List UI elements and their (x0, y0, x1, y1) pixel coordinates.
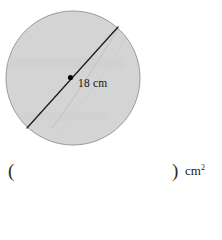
center-point-dot (68, 75, 73, 80)
answer-blank-field[interactable] (20, 160, 168, 180)
answer-open-paren: ( (8, 161, 14, 180)
answer-input-row: ( ) cm2 (0, 152, 222, 187)
answer-unit-text: cm (185, 163, 201, 178)
watermark-band-lower (12, 112, 108, 121)
answer-unit-exponent: 2 (201, 163, 205, 172)
answer-unit-label: cm2 (185, 164, 205, 177)
diameter-dimension-label: 18 cm (78, 78, 107, 90)
watermark-band (8, 58, 124, 69)
answer-close-paren: ) (172, 161, 178, 180)
